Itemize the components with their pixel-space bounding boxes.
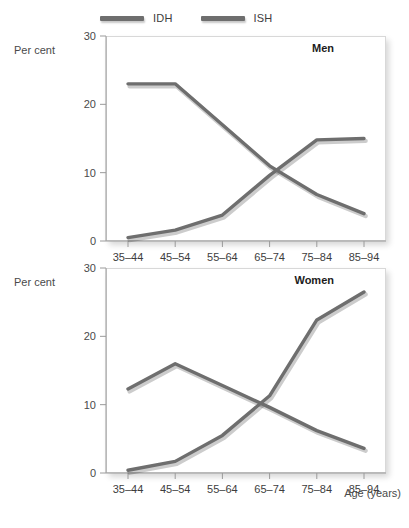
series-shadow-ish <box>130 294 366 472</box>
chart-legend: IDH ISH <box>100 8 330 28</box>
x-axis-title: Age (years) <box>344 487 401 499</box>
y-axis-label-men: Per cent <box>14 44 55 56</box>
svg-text:20: 20 <box>84 330 96 342</box>
svg-text:10: 10 <box>84 167 96 179</box>
series-line-idh <box>128 364 364 449</box>
svg-text:75–84: 75–84 <box>302 483 333 495</box>
chart-svg-women: 010203035–4445–5455–6465–7475–8485–94 <box>88 268 386 500</box>
svg-text:35–44: 35–44 <box>113 483 144 495</box>
panel-women: Per cent Women 010203035–4445–5455–6465–… <box>0 258 409 503</box>
legend-label-ish: ISH <box>254 12 273 24</box>
svg-text:0: 0 <box>90 467 96 479</box>
series-shadow-ish <box>130 141 366 240</box>
plot-area-women: Women 010203035–4445–5455–6465–7475–8485… <box>88 268 386 475</box>
figure-root: IDH ISH Per cent Men 010203035–4445–5455… <box>0 0 409 528</box>
legend-swatch-idh <box>100 16 144 21</box>
svg-text:10: 10 <box>84 399 96 411</box>
series-line-ish <box>128 139 364 238</box>
chart-svg-men: 010203035–4445–5455–6465–7475–8485–94 <box>88 36 386 268</box>
svg-text:65–74: 65–74 <box>254 483 285 495</box>
svg-text:45–54: 45–54 <box>160 483 191 495</box>
legend-swatch-ish <box>201 16 245 21</box>
svg-text:20: 20 <box>84 98 96 110</box>
svg-text:30: 30 <box>84 262 96 274</box>
y-axis-label-women: Per cent <box>14 276 55 288</box>
panel-men: Per cent Men 010203035–4445–5455–6465–74… <box>0 26 409 258</box>
plot-area-men: Men 010203035–4445–5455–6465–7475–8485–9… <box>88 36 386 243</box>
svg-text:0: 0 <box>90 235 96 247</box>
svg-text:30: 30 <box>84 30 96 42</box>
series-shadow-idh <box>130 366 366 451</box>
legend-item-ish: ISH <box>201 12 273 24</box>
legend-label-idh: IDH <box>153 12 173 24</box>
legend-item-idh: IDH <box>100 12 173 24</box>
svg-text:55–64: 55–64 <box>207 483 238 495</box>
